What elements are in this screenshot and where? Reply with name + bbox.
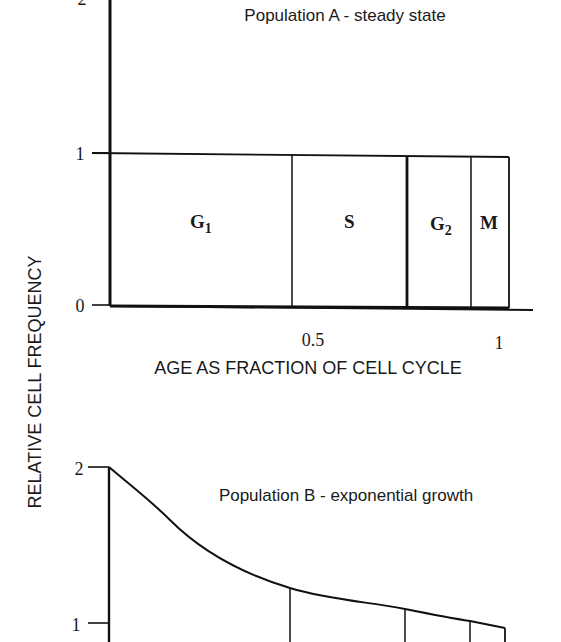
panel-a-ytick-label-2: 2 (78, 0, 87, 9)
phase-label-m: M (480, 212, 498, 233)
x-axis-title: AGE AS FRACTION OF CELL CYCLE (154, 358, 461, 378)
panel-b: 2 1 Population B - exponential growth (72, 459, 506, 642)
panel-a-xtick-label-0-5: 0.5 (302, 330, 325, 350)
panel-a-xtick-label-1: 1 (495, 333, 504, 353)
panel-b-ytick-label-2: 2 (75, 459, 84, 479)
y-axis-title: RELATIVE CELL FREQUENCY (25, 255, 45, 508)
panel-a-rect-top (92, 153, 509, 157)
panel-b-title: Population B - exponential growth (219, 486, 473, 505)
figure-canvas: RELATIVE CELL FREQUENCY 2 1 0 G1 S G2 M (0, 0, 561, 642)
panel-b-ytick-label-1: 1 (72, 615, 81, 635)
phase-label-g2: G2 (430, 213, 452, 238)
phase-label-s: S (344, 211, 355, 232)
panel-a-x-axis-bold (110, 306, 509, 308)
panel-a: 2 1 0 G1 S G2 M 0.5 1 AGE AS FRACTION OF… (76, 0, 534, 378)
phase-label-g1: G1 (190, 211, 212, 236)
panel-a-ytick-label-0: 0 (76, 296, 85, 316)
panel-a-ytick-label-1: 1 (76, 144, 85, 164)
chart-svg: RELATIVE CELL FREQUENCY 2 1 0 G1 S G2 M (0, 0, 561, 642)
panel-a-title: Population A - steady state (244, 6, 445, 25)
